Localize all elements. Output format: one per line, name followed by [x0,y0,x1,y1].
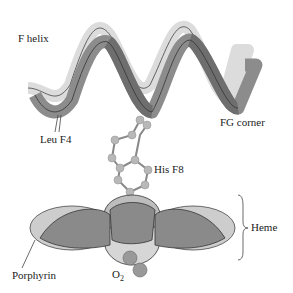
fg-corner-label: FG corner [220,116,265,128]
leu-f4-label: Leu F4 [40,133,71,145]
his-f8-label: His F8 [154,163,184,175]
o2-label: O2 [112,268,124,283]
o2-subscript: 2 [120,274,124,283]
his-atoms [108,116,152,196]
heme-brace-icon [238,195,248,260]
f-helix-label: F helix [18,32,49,44]
porphyrin-label: Porphyrin [12,269,56,281]
heme-label: Heme [251,221,277,233]
o2-text: O [112,268,120,280]
